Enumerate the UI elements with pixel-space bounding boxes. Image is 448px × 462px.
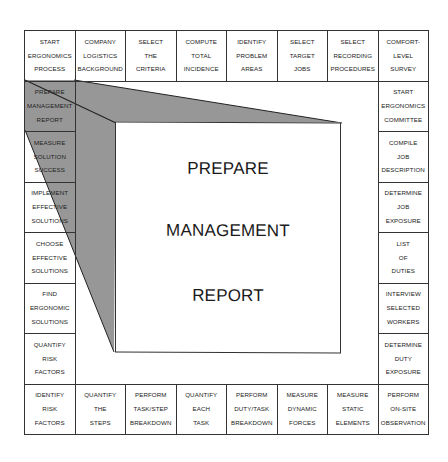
center-line-3: REPORT bbox=[116, 286, 340, 307]
cell-label-line: BREAKDOWN bbox=[130, 420, 171, 426]
cell-label-line: STATIC bbox=[342, 406, 364, 412]
step-cell-left-5: QUANTIFYRISKFACTORS bbox=[24, 333, 76, 385]
cell-label-line: WORKERS bbox=[387, 319, 420, 325]
cell-label-line: DETERMINE bbox=[385, 190, 422, 196]
cell-label-line: SELECT bbox=[138, 39, 163, 45]
step-cell-top-7: COMFORT-LEVELSURVEY bbox=[378, 30, 430, 82]
cell-label-line: LOGISTICS bbox=[83, 53, 117, 59]
cell-label-line: SOLUTIONS bbox=[31, 218, 68, 224]
cell-label-line: SELECT bbox=[340, 39, 365, 45]
cell-label-line: FORCES bbox=[289, 420, 315, 426]
step-cell-top-6: SELECTRECORDINGPROCEDURES bbox=[327, 30, 379, 82]
cell-label-line: COMPUTE bbox=[185, 39, 217, 45]
step-cell-left-3: CHOOSEEFFECTIVESOLUTIONS bbox=[24, 232, 76, 284]
cell-label-line: PROCEDURES bbox=[330, 66, 375, 72]
cell-label-line: ERGONOMICS bbox=[381, 103, 425, 109]
cell-label-line: COMPANY bbox=[84, 39, 116, 45]
step-cell-top-3: COMPUTETOTALINCIDENCE bbox=[176, 30, 228, 82]
cell-label-line: IMPLEMENT bbox=[31, 190, 68, 196]
cell-label-line: BREAKDOWN bbox=[231, 420, 272, 426]
cell-label-line: MEASURE bbox=[337, 392, 368, 398]
cell-label-line: MEASURE bbox=[287, 392, 318, 398]
cell-label-line: INCIDENCE bbox=[184, 66, 219, 72]
step-cell-top-5: SELECTTARGETJOBS bbox=[277, 30, 329, 82]
cell-label-line: PERFORM bbox=[236, 392, 268, 398]
step-cell-right-1: COMPILEJOBDESCRIPTION bbox=[378, 131, 430, 183]
cell-label-line: RECORDING bbox=[333, 53, 372, 59]
cell-label-line: COMPILE bbox=[389, 140, 418, 146]
step-cell-bottom-5: MEASUREDYNAMICFORCES bbox=[277, 384, 329, 436]
step-cell-left-0: PREPAREMANAGEMENTREPORT bbox=[24, 81, 76, 133]
center-panel: PREPARE MANAGEMENT REPORT bbox=[115, 122, 341, 354]
cell-label-line: THE bbox=[144, 53, 157, 59]
cell-label-line: PROCESS bbox=[34, 66, 65, 72]
cell-label-line: CRITERIA bbox=[136, 66, 166, 72]
cell-label-line: DETERMINE bbox=[385, 342, 422, 348]
step-cell-bottom-7: PERFORMON-SITEOBSERVATION bbox=[378, 384, 430, 436]
step-cell-top-0: STARTERGONOMICSPROCESS bbox=[24, 30, 76, 82]
cell-label-line: DESCRIPTION bbox=[382, 167, 425, 173]
cell-label-line: TARGET bbox=[290, 53, 315, 59]
cell-label-line: SUCCESS bbox=[34, 167, 65, 173]
cell-label-line: ON-SITE bbox=[390, 406, 416, 412]
cell-label-line: PERFORM bbox=[135, 392, 167, 398]
cell-label-line: EFFECTIVE bbox=[32, 255, 67, 261]
step-cell-top-2: SELECTTHECRITERIA bbox=[125, 30, 177, 82]
cell-label-line: SOLUTION bbox=[34, 154, 66, 160]
cell-label-line: OF bbox=[399, 255, 408, 261]
cell-label-line: THE bbox=[94, 406, 107, 412]
cell-label-line: PERFORM bbox=[387, 392, 419, 398]
cell-label-line: ERGONOMICS bbox=[28, 53, 72, 59]
cell-label-line: TASK/STEP bbox=[134, 406, 168, 412]
cell-label-line: JOBS bbox=[294, 66, 311, 72]
step-cell-right-4: INTERVIEWSELECTEDWORKERS bbox=[378, 283, 430, 335]
step-cell-top-1: COMPANYLOGISTICSBACKGROUND bbox=[75, 30, 127, 82]
cell-label-line: FACTORS bbox=[35, 369, 65, 375]
cell-label-line: RISK bbox=[42, 406, 57, 412]
process-board: STARTERGONOMICSPROCESSCOMPANYLOGISTICSBA… bbox=[0, 0, 448, 462]
cell-label-line: COMFORT- bbox=[386, 39, 420, 45]
cell-label-line: SURVEY bbox=[390, 66, 416, 72]
step-cell-left-2: IMPLEMENTEFFECTIVESOLUTIONS bbox=[24, 182, 76, 234]
cell-label-line: QUANTIFY bbox=[185, 392, 217, 398]
cell-label-line: CHOOSE bbox=[36, 241, 63, 247]
cell-label-line: EXPOSURE bbox=[386, 369, 421, 375]
step-cell-bottom-3: QUANTIFYEACHTASK bbox=[176, 384, 228, 436]
cell-label-line: PREPARE bbox=[35, 89, 65, 95]
cell-label-line: TASK bbox=[193, 420, 209, 426]
step-cell-bottom-6: MEASURESTATICELEMENTS bbox=[327, 384, 379, 436]
cell-label-line: TOTAL bbox=[191, 53, 211, 59]
cell-label-line: LEVEL bbox=[393, 53, 413, 59]
step-cell-right-3: LISTOFDUTIES bbox=[378, 232, 430, 284]
cell-label-line: IDENTIFY bbox=[35, 392, 64, 398]
center-line-2: MANAGEMENT bbox=[116, 221, 340, 242]
cell-label-line: SOLUTIONS bbox=[31, 319, 68, 325]
cell-label-line: EFFECTIVE bbox=[32, 204, 67, 210]
cell-label-line: FIND bbox=[42, 291, 57, 297]
cell-label-line: AREAS bbox=[241, 66, 262, 72]
step-cell-left-4: FINDERGONOMICSOLUTIONS bbox=[24, 283, 76, 335]
cell-label-line: ELEMENTS bbox=[336, 420, 370, 426]
cell-label-line: SELECTED bbox=[387, 305, 420, 311]
cell-label-line: REPORT bbox=[37, 117, 63, 123]
cell-label-line: EXPOSURE bbox=[386, 218, 421, 224]
step-cell-top-4: IDENTIFYPROBLEMAREAS bbox=[226, 30, 278, 82]
cell-label-line: PROBLEM bbox=[236, 53, 267, 59]
cell-label-line: INTERVIEW bbox=[386, 291, 421, 297]
cell-label-line: MANAGEMENT bbox=[27, 103, 72, 109]
cell-label-line: JOB bbox=[397, 204, 409, 210]
center-line-1: PREPARE bbox=[116, 159, 340, 180]
cell-label-line: ERGONOMIC bbox=[30, 305, 70, 311]
cell-label-line: STEPS bbox=[90, 420, 111, 426]
step-cell-left-1: MEASURESOLUTIONSUCCESS bbox=[24, 131, 76, 183]
cell-label-line: QUANTIFY bbox=[84, 392, 116, 398]
step-cell-bottom-2: PERFORMTASK/STEPBREAKDOWN bbox=[125, 384, 177, 436]
cell-label-line: DUTY bbox=[395, 356, 412, 362]
cell-label-line: FACTORS bbox=[35, 420, 65, 426]
step-cell-bottom-0: IDENTIFYRISKFACTORS bbox=[24, 384, 76, 436]
cell-label-line: COMMITTEE bbox=[384, 117, 422, 123]
cell-label-line: QUANTIFY bbox=[34, 342, 66, 348]
cell-label-line: SOLUTIONS bbox=[31, 268, 68, 274]
cell-label-line: MEASURE bbox=[34, 140, 65, 146]
cell-label-line: EACH bbox=[192, 406, 210, 412]
